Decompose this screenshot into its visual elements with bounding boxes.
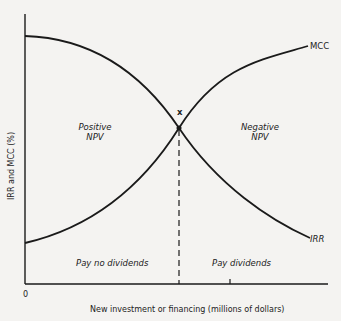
pay-no-dividends-label: Pay no dividends <box>76 258 148 268</box>
positive-npv-label: Positive NPV <box>70 122 120 142</box>
negative-npv-line1: Negative <box>235 122 285 132</box>
negative-npv-line2: NPV <box>235 132 285 142</box>
x-axis-label: New investment or financing (millions of… <box>90 305 284 314</box>
mcc-label: MCC <box>310 41 329 51</box>
pay-dividends-label: Pay dividends <box>212 258 271 268</box>
intersection-point <box>177 126 182 131</box>
origin-label: 0 <box>23 290 28 299</box>
negative-npv-label: Negative NPV <box>235 122 285 142</box>
chart-canvas <box>0 0 341 321</box>
intersection-label: x <box>177 107 182 117</box>
positive-npv-line1: Positive <box>70 122 120 132</box>
y-axis-label: IRR and MCC (%) <box>7 132 16 200</box>
positive-npv-line2: NPV <box>70 132 120 142</box>
irr-label: IRR <box>310 234 324 244</box>
